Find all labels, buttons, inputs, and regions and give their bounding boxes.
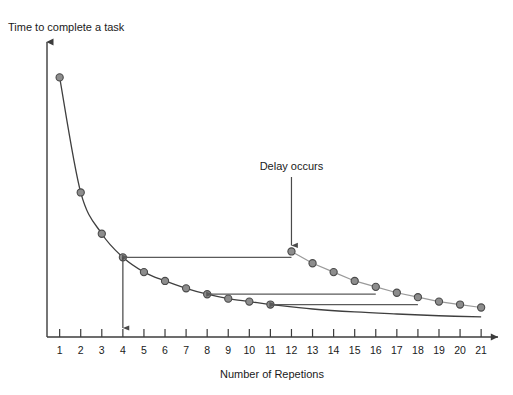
data-point-point-9 [225, 295, 232, 302]
x-tick-label-18: 18 [412, 344, 424, 356]
data-point-point-5 [140, 269, 147, 276]
delay-annotation-group: Delay occurs [260, 160, 324, 245]
x-tick-label-14: 14 [328, 344, 340, 356]
x-tick-label-3: 3 [99, 344, 105, 356]
chart-container: 123456789101112131415161718192021 Delay … [0, 0, 513, 395]
post-delay-curve-markers [288, 248, 485, 311]
x-axis-ticks [60, 329, 481, 337]
x-tick-label-2: 2 [78, 344, 84, 356]
delay-data-point-point-7 [414, 294, 421, 301]
y-axis-title: Time to complete a task [8, 21, 125, 33]
x-tick-label-1: 1 [57, 344, 63, 356]
delay-data-point-point-1 [288, 248, 295, 255]
x-tick-label-4: 4 [120, 344, 126, 356]
delay-data-point-point-3 [330, 269, 337, 276]
data-point-point-3 [98, 230, 105, 237]
x-tick-label-15: 15 [349, 344, 361, 356]
x-tick-label-12: 12 [286, 344, 298, 356]
delay-data-point-point-8 [435, 298, 442, 305]
x-tick-label-21: 21 [475, 344, 487, 356]
data-point-point-10 [246, 298, 253, 305]
baseline-continuation-line [270, 305, 481, 317]
x-tick-label-7: 7 [183, 344, 189, 356]
x-tick-label-11: 11 [265, 344, 276, 356]
delay-data-point-point-5 [372, 283, 379, 290]
delay-data-point-point-10 [478, 304, 485, 311]
data-point-point-6 [161, 277, 168, 284]
learning-curve-chart: 123456789101112131415161718192021 Delay … [0, 0, 513, 395]
axes-group [47, 42, 498, 337]
x-axis-title: Number of Repetions [220, 368, 324, 380]
x-tick-label-5: 5 [141, 344, 147, 356]
learning-curve-line [60, 77, 271, 304]
post-delay-curve-line [291, 251, 481, 307]
x-tick-label-19: 19 [433, 344, 445, 356]
learning-curve-markers [56, 74, 274, 308]
x-tick-label-6: 6 [162, 344, 168, 356]
data-point-point-2 [77, 189, 84, 196]
x-tick-label-16: 16 [370, 344, 382, 356]
data-point-point-7 [182, 285, 189, 292]
x-tick-label-9: 9 [225, 344, 231, 356]
x-tick-label-13: 13 [307, 344, 319, 356]
delay-occurs-label: Delay occurs [260, 160, 324, 172]
x-tick-label-20: 20 [454, 344, 466, 356]
delay-data-point-point-9 [456, 301, 463, 308]
delay-data-point-point-2 [309, 260, 316, 267]
x-axis-tick-labels: 123456789101112131415161718192021 [57, 344, 487, 356]
data-point-point-1 [56, 74, 63, 81]
x-tick-label-10: 10 [243, 344, 255, 356]
delay-data-point-point-4 [351, 277, 358, 284]
delay-data-point-point-6 [393, 289, 400, 296]
x-tick-label-17: 17 [391, 344, 403, 356]
x-tick-label-8: 8 [204, 344, 210, 356]
